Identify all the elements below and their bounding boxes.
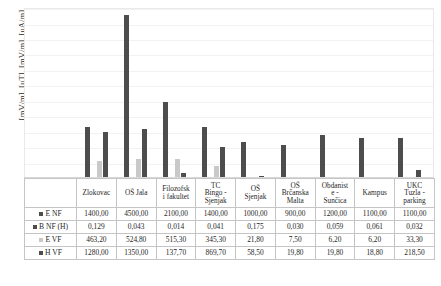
column-header-line: Sjenjak — [237, 193, 274, 201]
table-corner-cell — [25, 179, 77, 208]
table-cell: 4500,00 — [116, 208, 156, 221]
column-header: OŠSjenjak — [236, 179, 276, 208]
legend-label: E NF — [45, 209, 61, 218]
legend-entry[interactable]: E VF — [25, 234, 77, 247]
table-cell: 1100,00 — [355, 208, 395, 221]
bar — [142, 129, 147, 178]
bar — [85, 127, 90, 178]
column-header-line: parking — [396, 197, 433, 205]
legend-entry[interactable]: H VF — [25, 247, 77, 260]
table-cell: 1400,00 — [77, 208, 117, 221]
bar-group — [233, 9, 272, 178]
table-row: B NF (H)0,1290,0430,0140,0410,1750,0300,… — [25, 221, 435, 234]
bar-groups — [77, 9, 429, 178]
legend-label: H VF — [45, 248, 62, 257]
bar — [281, 145, 286, 178]
table-row: E NF1400,004500,002100,001400,001000,009… — [25, 208, 435, 221]
legend-label: E VF — [45, 235, 61, 244]
table-row: H VF1280,001350,00137,70869,7058,5019,80… — [25, 247, 435, 260]
legend-marker-icon — [39, 251, 43, 255]
table-cell: 18,80 — [355, 247, 395, 260]
table-cell: 1000,00 — [236, 208, 276, 221]
bar-group — [312, 9, 351, 178]
legend-entry[interactable]: E NF — [25, 208, 77, 221]
bar — [175, 159, 180, 178]
table-cell: 21,80 — [236, 234, 276, 247]
table-header-row: ZlokovacOŠ JalaFilozofski fakultetTCBing… — [25, 179, 435, 208]
bar-group — [351, 9, 390, 178]
table-cell: 0,129 — [77, 221, 117, 234]
bar-group — [77, 9, 116, 178]
legend-label: B NF (H) — [39, 222, 68, 231]
bar — [124, 15, 129, 178]
data-table: ZlokovacOŠ JalaFilozofski fakultetTCBing… — [24, 178, 435, 260]
column-header-line: i fakultet — [158, 193, 195, 201]
bar — [97, 161, 102, 178]
column-header: OŠBrčanskaMalta — [275, 179, 315, 208]
table-cell: 6,20 — [355, 234, 395, 247]
table-cell: 1350,00 — [116, 247, 156, 260]
column-header-line: Zlokovac — [78, 189, 115, 197]
column-header-line: Sjenjak — [197, 197, 234, 205]
column-header-line: Malta — [277, 197, 314, 205]
table-cell: 19,80 — [275, 247, 315, 260]
table-cell: 0,032 — [395, 221, 435, 234]
column-header-line: Sunčica — [317, 197, 354, 205]
table-cell: 19,80 — [315, 247, 355, 260]
table-cell: 6,20 — [315, 234, 355, 247]
table-cell: 515,30 — [156, 234, 196, 247]
bar — [136, 159, 141, 178]
bar — [163, 102, 168, 178]
legend-marker-icon — [39, 238, 43, 242]
bar — [359, 138, 364, 178]
table-cell: 33,30 — [395, 234, 435, 247]
bar — [202, 127, 207, 178]
table-cell: 58,50 — [236, 247, 276, 260]
table-cell: 900,00 — [275, 208, 315, 221]
bar-group — [273, 9, 312, 178]
table-cell: 1200,00 — [315, 208, 355, 221]
legend-marker-icon — [33, 225, 37, 229]
table-cell: 0,059 — [315, 221, 355, 234]
bar-group — [194, 9, 233, 178]
table-cell: 1400,00 — [196, 208, 236, 221]
table-cell: 345,30 — [196, 234, 236, 247]
table-cell: 2100,00 — [156, 208, 196, 221]
column-header: OŠ Jala — [116, 179, 156, 208]
column-header: Obdaniste -Sunčica — [315, 179, 355, 208]
table-cell: 0,061 — [355, 221, 395, 234]
column-header: Zlokovac — [77, 179, 117, 208]
table-cell: 1280,00 — [77, 247, 117, 260]
column-header: Filozofski fakultet — [156, 179, 196, 208]
bar — [320, 135, 325, 178]
table-cell: 463,20 — [77, 234, 117, 247]
table-cell: 0,014 — [156, 221, 196, 234]
column-header: Kampus — [355, 179, 395, 208]
table-cell: 869,70 — [196, 247, 236, 260]
table-cell: 137,70 — [156, 247, 196, 260]
table-cell: 1100,00 — [395, 208, 435, 221]
bar-group — [155, 9, 194, 178]
column-header-line: Kampus — [356, 189, 393, 197]
table-cell: 7,50 — [275, 234, 315, 247]
legend-marker-icon — [39, 212, 43, 216]
bar-group — [390, 9, 429, 178]
legend-entry[interactable]: B NF (H) — [25, 221, 77, 234]
table-cell: 218,50 — [395, 247, 435, 260]
table-cell: 0,175 — [236, 221, 276, 234]
bar — [398, 138, 403, 178]
table-body: E NF1400,004500,002100,001400,001000,009… — [25, 208, 435, 260]
table-cell: 0,043 — [116, 221, 156, 234]
column-header: UKCTuzla -parking — [395, 179, 435, 208]
chart-figure: [mV/m], [uT], [mV/m], [uA/m] ZlokovacOŠ … — [0, 0, 441, 286]
column-header: TCBingo -Sjenjak — [196, 179, 236, 208]
bar — [103, 132, 108, 178]
plot-area — [24, 8, 434, 178]
bar — [220, 147, 225, 178]
plot-inner — [77, 9, 429, 178]
table-cell: 0,030 — [275, 221, 315, 234]
bar-group — [116, 9, 155, 178]
column-header-line: OŠ Jala — [118, 189, 155, 197]
table-cell: 0,041 — [196, 221, 236, 234]
table-row: E VF463,20524,80515,30345,3021,807,506,2… — [25, 234, 435, 247]
